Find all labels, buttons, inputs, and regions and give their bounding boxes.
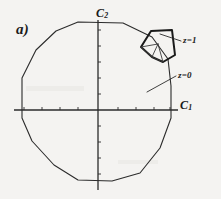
axis-group bbox=[14, 20, 178, 190]
leader-line-z0 bbox=[147, 76, 176, 92]
annotation-label-z1: z=1 bbox=[183, 36, 197, 45]
axis-label-c2: C2 bbox=[96, 7, 108, 20]
annotation-label-z0: z=0 bbox=[178, 71, 192, 80]
panel-label: a) bbox=[16, 22, 29, 37]
annotation-leader-lines bbox=[147, 34, 181, 92]
axis-label-c2-subscript: 2 bbox=[104, 11, 108, 20]
axis-label-c2-base: C bbox=[96, 6, 104, 20]
axis-label-c1-base: C bbox=[180, 98, 188, 112]
axis-label-c1: C1 bbox=[180, 99, 192, 112]
axis-label-c1-subscript: 1 bbox=[188, 103, 192, 112]
leader-line-z1 bbox=[160, 34, 181, 41]
figure-panel-a: a) C2 C1 z=1 z=0 bbox=[0, 0, 221, 199]
